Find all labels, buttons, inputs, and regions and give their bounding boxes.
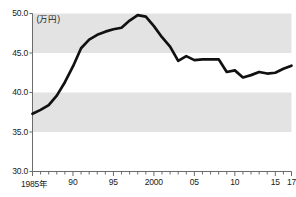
y-axis-tick-label-50.0: 50.0 bbox=[0, 8, 28, 18]
line-chart-plot bbox=[0, 0, 296, 197]
x-axis-tick-label-2010: 10 bbox=[230, 177, 239, 187]
band-0 bbox=[33, 14, 292, 54]
x-axis-tick-label-1985: 1985年 bbox=[21, 177, 48, 189]
y-axis-tick-label-40.0: 40.0 bbox=[0, 87, 28, 97]
y-axis-unit-label: (万円) bbox=[37, 12, 61, 24]
x-axis-tick-label-2000: 2000 bbox=[145, 177, 163, 187]
band-1 bbox=[33, 93, 292, 133]
x-axis-tick-label-1995: 95 bbox=[109, 177, 118, 187]
background-bands bbox=[33, 14, 292, 133]
y-axis-tick-label-35.0: 35.0 bbox=[0, 127, 28, 137]
x-axis-tick-label-2015: 15 bbox=[271, 177, 280, 187]
y-axis-tick-label-45.0: 45.0 bbox=[0, 48, 28, 58]
y-axis-tick-label-30.0: 30.0 bbox=[0, 166, 28, 176]
x-axis-tick-label-1990: 90 bbox=[68, 177, 77, 187]
chart-container: (万円) 50.045.040.035.030.0 1985年909520000… bbox=[0, 0, 296, 197]
x-axis-tick-label-2005: 05 bbox=[190, 177, 199, 187]
x-axis-tick-label-2017: 17 bbox=[287, 177, 296, 187]
